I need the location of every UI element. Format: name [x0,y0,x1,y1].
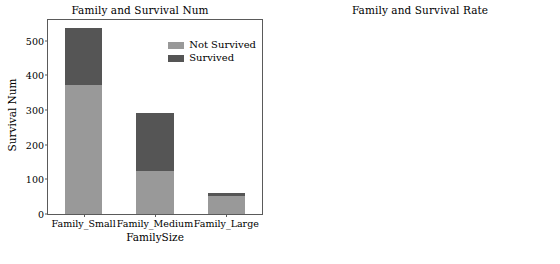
x-tick-mark [226,214,227,217]
x-tick-mark [155,214,156,217]
chart-title-rate: Family and Survival Rate [280,4,560,16]
legend-swatch-not-survived [168,42,184,49]
y-tick-mark [45,214,48,215]
chart-title-num: Family and Survival Num [0,4,280,16]
y-tick-mark [45,75,48,76]
bar-segment [136,113,173,172]
legend-item-not-survived: Not Survived [168,40,256,50]
bar-segment [65,28,102,85]
subplot-family-and-survival-rate: Family and Survival Rate Survival Rate F… [280,0,560,264]
y-tick-mark [45,144,48,145]
plot-inner-num: Survival Num FamilySize Not Survived Sur… [48,20,262,214]
plot-area-num: Survival Num FamilySize Not Survived Sur… [47,19,263,215]
subplot-family-and-survival-num: Family and Survival Num Survival Num Fam… [0,0,280,264]
bar-family-small [65,28,102,214]
legend-label-survived: Survived [189,53,234,63]
bar-segment [136,171,173,214]
x-axis-label-num: FamilySize [48,231,262,243]
y-axis-label-num: Survival Num [6,70,18,160]
bar-family-large [208,193,245,214]
bar-segment [65,85,102,214]
y-tick-mark [45,110,48,111]
figure-canvas: Family and Survival Num Survival Num Fam… [0,0,560,264]
y-tick-mark [45,40,48,41]
x-tick-label-family-small: Family_Small [52,218,116,229]
y-tick-mark [45,179,48,180]
x-tick-mark [84,214,85,217]
x-tick-label-family-large: Family_Large [194,218,259,229]
legend-num: Not Survived Survived [168,40,256,63]
bar-family-medium [136,113,173,214]
legend-item-survived: Survived [168,53,256,63]
x-tick-label-family-medium: Family_Medium [117,218,193,229]
legend-label-not-survived: Not Survived [189,40,256,50]
legend-swatch-survived [168,55,184,62]
bar-segment [208,196,245,214]
